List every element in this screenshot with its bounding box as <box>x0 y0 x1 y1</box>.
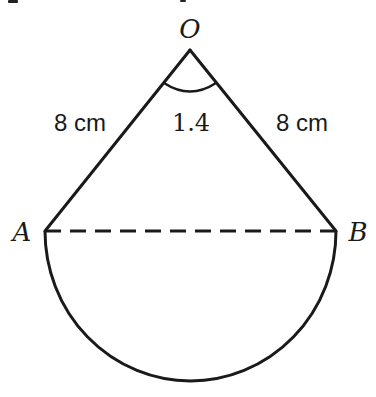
semicircle-arc <box>45 231 336 381</box>
label-A: A <box>11 217 32 247</box>
angle-value-label: 1.4 <box>172 109 210 137</box>
side-OB <box>190 50 336 231</box>
left-side-length-label: 8 cm <box>54 109 106 136</box>
sector-semicircle-diagram: O A B 1.4 8 cm 8 cm <box>0 0 376 397</box>
side-OA <box>45 50 190 231</box>
label-O: O <box>179 14 200 44</box>
cropped-top-text-fragments <box>8 0 186 3</box>
angle-arc <box>164 83 216 92</box>
label-B: B <box>347 217 367 247</box>
right-side-length-label: 8 cm <box>276 109 328 136</box>
